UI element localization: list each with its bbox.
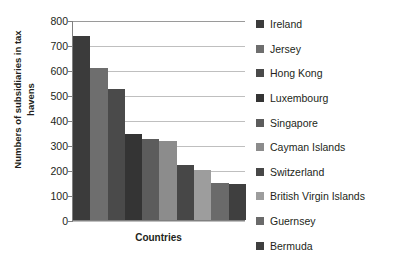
legend-item: Cayman Islands	[256, 135, 393, 160]
legend-item: Singapore	[256, 110, 393, 135]
y-axis-tick-label: 600	[36, 65, 68, 77]
plot-area	[72, 21, 245, 221]
bar	[108, 89, 125, 220]
y-axis-tick-label: 300	[36, 140, 68, 152]
bar	[159, 141, 176, 220]
bar	[125, 134, 142, 220]
y-axis-tick-label: 100	[36, 190, 68, 202]
y-axis-title-container: Numbers of subsidiaries in tax havens	[0, 0, 40, 240]
legend-item: Guernsey	[256, 209, 393, 234]
y-axis-tick-label: 200	[36, 165, 68, 177]
y-axis-tick-label: 400	[36, 115, 68, 127]
legend-item: Jersey	[256, 37, 393, 62]
legend-item: Bermuda	[256, 233, 393, 258]
legend-item: Luxembourg	[256, 86, 393, 111]
legend-swatch-icon	[256, 69, 264, 77]
bar	[177, 165, 194, 220]
bar	[194, 170, 211, 220]
legend-item-label: Singapore	[270, 117, 318, 129]
legend-item-label: Guernsey	[270, 215, 316, 227]
y-axis-tick-label: 700	[36, 40, 68, 52]
legend-item-label: Hong Kong	[270, 67, 323, 79]
y-axis-tick-label: 500	[36, 90, 68, 102]
legend-item-label: Ireland	[270, 18, 302, 30]
legend-item-label: Bermuda	[270, 240, 313, 252]
y-axis-title: Numbers of subsidiaries in tax havens	[12, 10, 37, 190]
bar	[90, 68, 107, 221]
legend-item: Ireland	[256, 12, 393, 37]
legend-item: Hong Kong	[256, 61, 393, 86]
bar-series	[73, 20, 246, 220]
legend-swatch-icon	[256, 45, 264, 53]
legend-item-label: Cayman Islands	[270, 141, 345, 153]
legend-item-label: Jersey	[270, 43, 301, 55]
gridline	[72, 221, 245, 222]
legend: IrelandJerseyHong KongLuxembourgSingapor…	[256, 12, 393, 258]
legend-swatch-icon	[256, 94, 264, 102]
bar	[73, 36, 90, 220]
legend-swatch-icon	[256, 192, 264, 200]
legend-item: Switzerland	[256, 160, 393, 185]
legend-item: British Virgin Islands	[256, 184, 393, 209]
y-axis-tick-label: 0	[36, 215, 68, 227]
y-axis-tick-label: 800	[36, 15, 68, 27]
x-axis-line	[72, 220, 245, 221]
bar	[229, 184, 246, 220]
legend-item-label: British Virgin Islands	[270, 190, 365, 202]
y-axis-tick-labels: 8007006005004003002001000	[36, 0, 68, 240]
bar	[142, 139, 159, 220]
legend-swatch-icon	[256, 143, 264, 151]
legend-item-label: Luxembourg	[270, 92, 328, 104]
legend-item-label: Switzerland	[270, 166, 324, 178]
legend-swatch-icon	[256, 119, 264, 127]
legend-swatch-icon	[256, 242, 264, 250]
x-axis-title: Countries	[72, 232, 245, 243]
bar	[211, 183, 228, 221]
legend-swatch-icon	[256, 20, 264, 28]
y-axis-title-line-1: Numbers of subsidiaries in tax	[12, 30, 23, 168]
y-axis-title-line-2: havens	[24, 83, 35, 116]
legend-swatch-icon	[256, 168, 264, 176]
bar-chart: Numbers of subsidiaries in tax havens 80…	[0, 0, 393, 264]
legend-swatch-icon	[256, 217, 264, 225]
